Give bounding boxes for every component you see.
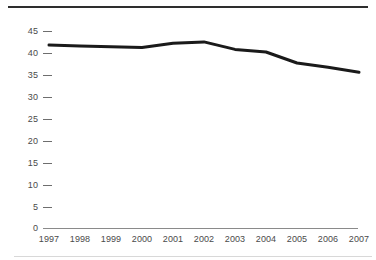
data-line-series <box>0 0 376 260</box>
chart-figure: 45 40 35 30 25 20 15 10 5 0 1997 1998 19… <box>0 0 376 260</box>
x-axis-tick-label-2000: 2000 <box>125 234 159 244</box>
x-axis-tick-label-2007: 2007 <box>342 234 376 244</box>
x-axis-tick-label-1997: 1997 <box>32 234 66 244</box>
series-polyline <box>49 42 359 72</box>
x-axis-tick-label-2003: 2003 <box>218 234 252 244</box>
x-axis-tick-label-1998: 1998 <box>63 234 97 244</box>
x-axis-tick-label-2002: 2002 <box>187 234 221 244</box>
x-axis-tick-label-1999: 1999 <box>94 234 128 244</box>
x-axis-tick-label-2005: 2005 <box>280 234 314 244</box>
x-axis-tick-label-2006: 2006 <box>311 234 345 244</box>
x-axis-tick-label-2004: 2004 <box>249 234 283 244</box>
plot-area: 45 40 35 30 25 20 15 10 5 0 1997 1998 19… <box>0 0 376 260</box>
x-axis-tick-label-2001: 2001 <box>156 234 190 244</box>
bottom-divider-rule <box>14 256 372 257</box>
